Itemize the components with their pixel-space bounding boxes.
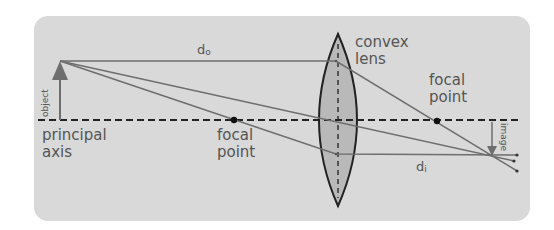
right-focal-label: focal point <box>429 72 467 106</box>
lens-hit-dot <box>335 153 337 155</box>
lens-label-line2: lens <box>355 51 409 68</box>
right-focal-point <box>434 118 440 124</box>
right-focal-label-line1: focal <box>429 72 467 89</box>
left-focal-label-line2: point <box>217 144 255 161</box>
object-label: object <box>40 89 50 117</box>
left-focal-label: focal point <box>217 127 255 161</box>
right-focal-label-line2: point <box>429 89 467 106</box>
principal-axis-label: principal axis <box>42 127 107 161</box>
lens-label: convex lens <box>355 34 409 68</box>
ray-end-dot <box>515 153 518 156</box>
lens-label-line1: convex <box>355 34 409 51</box>
left-focal-label-line1: focal <box>217 127 255 144</box>
lens-hit-dot <box>335 60 337 62</box>
principal-axis-label-line2: axis <box>42 144 107 161</box>
object-distance-label: do <box>197 41 211 61</box>
object-arrow-head <box>52 61 68 80</box>
left-focal-point <box>231 117 237 123</box>
principal-axis-label-line1: principal <box>42 127 107 144</box>
ray-diagram <box>0 0 554 230</box>
image-label: image <box>499 123 509 151</box>
ray-end-dot <box>515 169 518 172</box>
image-distance-label: di <box>416 158 427 178</box>
ray-end-dot <box>512 159 515 162</box>
